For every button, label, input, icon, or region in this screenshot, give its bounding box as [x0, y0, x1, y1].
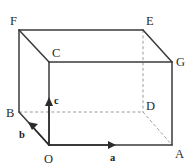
vertex-labels-group: F E C G B D O A: [6, 14, 185, 166]
vertex-label-E: E: [146, 14, 154, 28]
vector-label-a: a: [110, 152, 116, 163]
vertex-label-O: O: [44, 152, 53, 166]
vertex-label-C: C: [52, 46, 60, 60]
vector-a-arrowhead: [108, 141, 116, 149]
vertex-label-G: G: [176, 55, 185, 69]
edge-E-G: [143, 30, 172, 62]
vector-label-c: c: [54, 95, 59, 106]
edge-F-C: [19, 30, 49, 62]
vector-label-b: b: [19, 129, 25, 140]
vector-c: [45, 97, 53, 145]
edge-D-A: [143, 112, 172, 145]
vector-b-arrowhead: [28, 122, 38, 130]
vertex-label-D: D: [146, 99, 155, 113]
visible-edges-group: [19, 30, 172, 145]
vertex-label-A: A: [175, 147, 184, 161]
cuboid-diagram: F E C G B D O A a b c: [0, 0, 194, 167]
vertex-label-B: B: [6, 106, 14, 120]
vertex-label-F: F: [10, 14, 17, 28]
vector-b-shaft: [32, 126, 49, 145]
vector-a: [49, 141, 116, 149]
vector-c-arrowhead: [45, 97, 53, 106]
geometry-figure: F E C G B D O A a b c: [0, 0, 194, 167]
vector-b: [28, 122, 49, 145]
hidden-edges-group: [19, 30, 172, 145]
